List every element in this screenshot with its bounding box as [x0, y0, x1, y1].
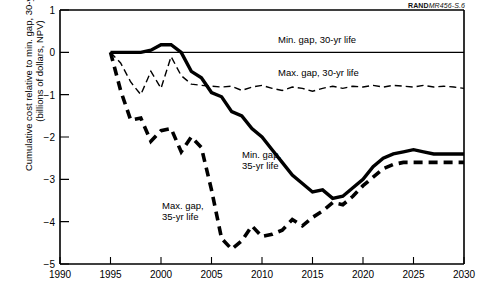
- x-tick-label: 2030: [443, 269, 480, 280]
- x-tick-label: 2010: [241, 269, 283, 280]
- series-label-max-gap-30yr: Max. gap, 30-yr life: [278, 68, 359, 79]
- x-tick-label: 2015: [292, 269, 334, 280]
- plot-area: 10−1−2−3−4−5 199019952000200520102015202…: [60, 10, 464, 264]
- x-tick-label: 2000: [140, 269, 182, 280]
- x-tick-label: 2020: [342, 269, 384, 280]
- x-tick-label: 2005: [191, 269, 233, 280]
- max-gap-35yr-line1: Max. gap,: [162, 200, 204, 211]
- min-gap-35yr-line2: 35-yr life: [242, 160, 278, 171]
- y-tick-label: −2: [29, 132, 55, 143]
- figure-id-italic: MR456-S.6: [429, 2, 465, 9]
- y-tick-label: 1: [29, 5, 55, 16]
- y-tick-label: 0: [29, 47, 55, 58]
- chart-canvas: [60, 10, 464, 264]
- x-tick-label: 1995: [90, 269, 132, 280]
- y-tick-label: −3: [29, 174, 55, 185]
- x-tick-label: 2025: [393, 269, 435, 280]
- series-label-min-gap-30yr: Min. gap, 30-yr life: [278, 35, 356, 46]
- y-tick-label: −5: [29, 259, 55, 270]
- series-label-max-gap-35yr: Max. gap,35-yr life: [162, 201, 204, 222]
- max-gap-35yr-line2: 35-yr life: [162, 211, 198, 222]
- y-tick-label: −4: [29, 216, 55, 227]
- series-label-min-gap-35yr: Min. gap,35-yr life: [242, 150, 281, 171]
- y-axis-label-line1: Cumulative cost relative to min. gap, 30…: [23, 0, 34, 171]
- x-tick-label: 1990: [39, 269, 81, 280]
- min-gap-35yr-line1: Min. gap,: [242, 149, 281, 160]
- figure-id-label: RANDMR456-S.6: [408, 2, 465, 9]
- y-tick-label: −1: [29, 89, 55, 100]
- figure-id-bold: RAND: [408, 2, 429, 9]
